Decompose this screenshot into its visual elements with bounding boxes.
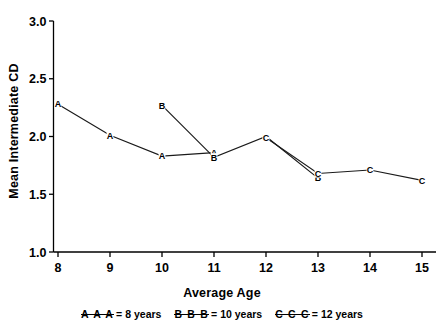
legend-equals-a: = xyxy=(115,308,122,320)
data-point-marker-b-11: B xyxy=(211,153,218,163)
y-tick-label: 2.5 xyxy=(29,72,46,86)
data-point-marker-c-12: C xyxy=(263,133,270,143)
legend-label-b: 10 years xyxy=(217,308,262,320)
y-tick-label: 3.0 xyxy=(29,15,46,29)
x-tick-label: 8 xyxy=(55,261,62,275)
data-point-marker-c-14: C xyxy=(367,165,374,175)
tick-marks-group xyxy=(49,21,422,257)
data-point-marker-b-10: B xyxy=(159,101,166,111)
data-point-marker-a-8: A xyxy=(55,99,62,109)
legend-item-b: B B B = 10 years xyxy=(174,308,262,320)
series-line-c xyxy=(266,138,422,181)
x-tick-label: 11 xyxy=(207,261,220,275)
legend-label-a: 8 years xyxy=(122,308,161,320)
x-tick-label: 10 xyxy=(155,261,169,275)
chart-figure: 1.01.52.02.53.0 89101112131415 AAAABBBBC… xyxy=(0,0,444,335)
y-tick-label: 1.0 xyxy=(29,246,46,260)
data-point-marker-c-13: C xyxy=(315,169,322,179)
legend-key-b: B B B xyxy=(174,308,210,320)
x-tick-label: 12 xyxy=(259,261,273,275)
y-axis-title: Mean Intermediate CD xyxy=(7,63,21,198)
x-tick-label: 14 xyxy=(363,261,377,275)
y-tick-label: 2.0 xyxy=(29,130,46,144)
series-c: CCCC xyxy=(263,133,426,186)
x-tick-label: 13 xyxy=(311,261,325,275)
data-point-marker-a-9: A xyxy=(107,131,114,141)
series-a: AAAA xyxy=(55,99,218,161)
data-series-group: AAAABBBBCCCC xyxy=(55,99,426,185)
chart-legend: A A A = 8 years B B B = 10 years C C C =… xyxy=(0,308,444,320)
x-tick-label-group: 89101112131415 xyxy=(55,261,429,275)
series-line-b xyxy=(162,105,318,178)
series-line-a xyxy=(58,104,214,156)
x-tick-label: 9 xyxy=(107,261,114,275)
line-chart-plot: 1.01.52.02.53.0 89101112131415 AAAABBBBC… xyxy=(0,0,444,335)
x-tick-label: 15 xyxy=(415,261,429,275)
series-b: BBBB xyxy=(159,101,322,184)
data-point-marker-a-10: A xyxy=(159,151,166,161)
legend-key-c: C C C xyxy=(275,308,311,320)
legend-item-a: A A A = 8 years xyxy=(81,308,161,320)
y-tick-label: 1.5 xyxy=(29,188,46,202)
y-tick-label-group: 1.01.52.02.53.0 xyxy=(29,15,46,260)
legend-equals-b: = xyxy=(210,308,217,320)
legend-label-c: 12 years xyxy=(318,308,363,320)
y-axis-title-wrap: Mean Intermediate CD xyxy=(2,0,26,262)
x-axis-title: Average Age xyxy=(0,286,444,300)
data-point-marker-c-15: C xyxy=(419,176,426,186)
legend-item-c: C C C = 12 years xyxy=(275,308,363,320)
legend-equals-c: = xyxy=(311,308,318,320)
legend-key-a: A A A xyxy=(81,308,115,320)
